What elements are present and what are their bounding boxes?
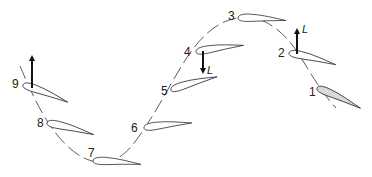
airfoil-2 — [288, 49, 336, 68]
airfoil-7 — [93, 157, 141, 168]
airfoil-label-1: 1 — [309, 85, 316, 99]
airfoil-label-5: 5 — [161, 84, 168, 98]
airfoil-label-7: 7 — [88, 146, 95, 160]
airfoil-label-2: 2 — [278, 46, 285, 60]
airfoil-label-9: 9 — [12, 77, 19, 91]
airfoil-label-8: 8 — [37, 116, 44, 130]
airfoil-1 — [316, 84, 363, 111]
lift-label-4: L — [207, 64, 213, 76]
airfoil-9 — [22, 81, 69, 105]
airfoil-label-4: 4 — [184, 45, 191, 59]
lift-label-2: L — [302, 23, 308, 35]
airfoil-label-3: 3 — [228, 9, 235, 23]
airfoil-trajectory-diagram: 1 2 L 3 4 L 5 6 7 8 9 — [0, 0, 372, 177]
airfoil-3 — [238, 14, 286, 24]
airfoil-label-6: 6 — [131, 121, 138, 135]
airfoil-6 — [144, 119, 193, 131]
airfoil-8 — [46, 119, 94, 138]
